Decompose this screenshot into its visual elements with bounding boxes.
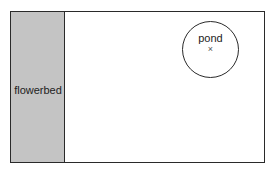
- pond-label: pond: [183, 32, 238, 44]
- pond-center-marker-icon: ×: [183, 44, 238, 54]
- garden-plan: flowerbed pond ×: [10, 11, 265, 163]
- pond-circle: pond ×: [182, 21, 239, 78]
- flowerbed-region: flowerbed: [11, 12, 65, 162]
- flowerbed-label: flowerbed: [11, 84, 65, 96]
